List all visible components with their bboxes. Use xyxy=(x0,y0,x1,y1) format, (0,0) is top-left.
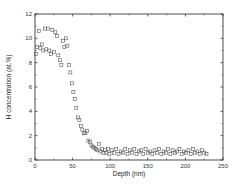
y-tick-label: 8 xyxy=(29,60,33,66)
y-tick-label: 4 xyxy=(29,108,33,114)
y-tick-label: 10 xyxy=(25,35,32,41)
x-tick-label: 150 xyxy=(143,163,154,169)
scatter-chart: 024681012 050100150200250 Depth (nm) H c… xyxy=(0,0,236,192)
x-axis-label: Depth (nm) xyxy=(113,170,146,178)
y-tick-label: 6 xyxy=(29,84,33,90)
y-axis-label: H concentration (at.%) xyxy=(5,55,13,120)
x-tick-label: 50 xyxy=(69,163,76,169)
x-tick-label: 100 xyxy=(105,163,116,169)
y-tick-label: 12 xyxy=(25,11,32,17)
y-tick-label: 0 xyxy=(29,157,33,163)
plot-frame xyxy=(35,14,223,160)
x-tick-label: 200 xyxy=(180,163,191,169)
x-tick-label: 250 xyxy=(218,163,229,169)
y-tick-label: 2 xyxy=(29,133,33,139)
x-tick-label: 0 xyxy=(33,163,37,169)
